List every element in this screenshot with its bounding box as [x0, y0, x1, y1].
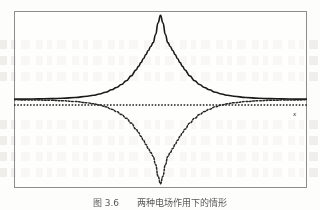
plot-canvas [14, 11, 307, 188]
series-lower-trough-dotted [14, 100, 307, 184]
x-axis-label: x [293, 110, 296, 118]
figure-caption: 图 3.6 两种电场作用下的情形 [0, 196, 320, 210]
series-upper-peak-solid [14, 15, 307, 99]
figure-container: x 图 3.6 两种电场作用下的情形 [0, 0, 320, 210]
